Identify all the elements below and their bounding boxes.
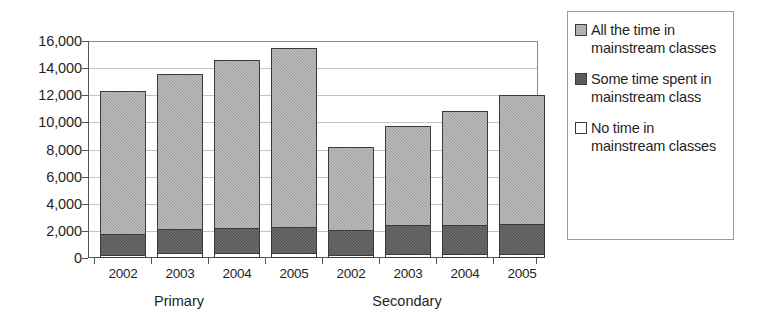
x-tick-mark xyxy=(151,258,152,264)
all-the-time-swatch-icon xyxy=(575,24,587,36)
y-axis-ticks xyxy=(0,41,88,258)
x-tick-mark xyxy=(493,258,494,264)
plot-wrapper: 16,000 14,000 12,000 10,000 8,000 6,000 … xyxy=(0,0,560,330)
x-axis-group-labels: Primary Secondary xyxy=(88,292,538,314)
x-tick-mark xyxy=(379,258,380,264)
x-category-label-primary-2004: 2004 xyxy=(207,266,267,282)
legend-item-all-the-time[interactable]: All the time in mainstream classes xyxy=(575,21,727,57)
bar-segment-some-time[interactable] xyxy=(385,225,431,254)
x-category-label-primary-2003: 2003 xyxy=(150,266,210,282)
legend-item-label: No time in mainstream classes xyxy=(591,119,727,155)
legend: All the time in mainstream classes Some … xyxy=(567,11,734,240)
x-category-label-primary-2002: 2002 xyxy=(93,266,153,282)
legend-item-label: All the time in mainstream classes xyxy=(591,21,727,57)
legend-item-no-time[interactable]: No time in mainstream classes xyxy=(575,119,727,155)
legend-item-some-time[interactable]: Some time spent in mainstream class xyxy=(575,70,727,106)
x-category-label-secondary-2003: 2003 xyxy=(378,266,438,282)
some-time-swatch-icon xyxy=(575,73,587,85)
x-tick-mark xyxy=(94,258,95,264)
bar-primary-2003[interactable] xyxy=(157,74,203,258)
bar-primary-2005[interactable] xyxy=(271,48,317,259)
bar-segment-all-time[interactable] xyxy=(157,74,203,229)
bar-segment-all-time[interactable] xyxy=(499,95,545,224)
bar-primary-2004[interactable] xyxy=(214,60,260,258)
bar-segment-all-time[interactable] xyxy=(442,111,488,225)
bar-primary-2002[interactable] xyxy=(100,91,146,258)
bar-segment-all-time[interactable] xyxy=(328,147,374,230)
bar-segment-all-time[interactable] xyxy=(271,48,317,227)
bar-segment-some-time[interactable] xyxy=(499,224,545,254)
bar-segment-all-time[interactable] xyxy=(214,60,260,228)
bar-secondary-2003[interactable] xyxy=(385,126,431,258)
bar-segment-all-time[interactable] xyxy=(385,126,431,225)
stacked-bar-chart: 16,000 14,000 12,000 10,000 8,000 6,000 … xyxy=(0,0,757,330)
x-group-label-secondary: Secondary xyxy=(327,292,487,310)
bar-segment-all-time[interactable] xyxy=(100,91,146,234)
legend-item-label: Some time spent in mainstream class xyxy=(591,70,727,106)
x-tick-mark xyxy=(436,258,437,264)
x-category-label-secondary-2005: 2005 xyxy=(492,266,552,282)
bar-segment-some-time[interactable] xyxy=(442,225,488,254)
bars-layer xyxy=(88,41,538,258)
bar-segment-some-time[interactable] xyxy=(157,229,203,253)
x-category-label-primary-2005: 2005 xyxy=(264,266,324,282)
bar-secondary-2005[interactable] xyxy=(499,95,545,259)
bar-secondary-2004[interactable] xyxy=(442,111,488,258)
x-tick-mark xyxy=(322,258,323,264)
x-tick-mark xyxy=(265,258,266,264)
bar-segment-some-time[interactable] xyxy=(271,227,317,253)
x-group-label-primary: Primary xyxy=(99,292,259,310)
no-time-swatch-icon xyxy=(575,122,587,134)
x-tick-mark xyxy=(536,258,537,264)
x-category-label-secondary-2002: 2002 xyxy=(321,266,381,282)
x-axis-ticks xyxy=(88,258,538,265)
bar-segment-some-time[interactable] xyxy=(100,234,146,255)
x-category-label-secondary-2004: 2004 xyxy=(435,266,495,282)
bar-segment-some-time[interactable] xyxy=(214,228,260,253)
x-tick-mark xyxy=(208,258,209,264)
bar-secondary-2002[interactable] xyxy=(328,147,374,259)
x-axis-category-labels: 2002 2003 2004 2005 2002 2003 2004 2005 xyxy=(88,266,538,286)
bar-segment-some-time[interactable] xyxy=(328,230,374,255)
